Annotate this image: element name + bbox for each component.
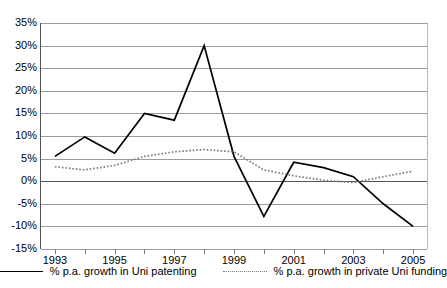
y-axis-tick-label: 0% <box>1 175 37 186</box>
x-axis-tick <box>383 249 384 254</box>
gridline <box>41 136 427 137</box>
y-axis-tick-label: 20% <box>1 85 37 96</box>
gridline <box>41 113 427 114</box>
legend-label-private-uni-funding: % p.a. growth in private Uni funding <box>274 265 447 277</box>
y-axis-tick-label: 25% <box>1 62 37 73</box>
legend-item-uni-patenting: % p.a. growth in Uni patenting <box>0 265 197 277</box>
y-axis-tick-label: -5% <box>1 198 37 209</box>
gridline <box>41 23 427 24</box>
y-axis-tick-label: 10% <box>1 130 37 141</box>
y-axis-tick-label: -15% <box>1 243 37 254</box>
x-axis-tick <box>264 249 265 254</box>
x-axis-tick <box>324 249 325 254</box>
plot-area <box>40 23 428 249</box>
gridline <box>41 46 427 47</box>
y-axis-tick-label: 5% <box>1 153 37 164</box>
y-axis-labels: 35%30%25%20%15%10%5%0%-5%-10%-15% <box>0 0 37 288</box>
solid-line-swatch <box>0 267 43 276</box>
gridline <box>41 68 427 69</box>
dotted-line-swatch <box>223 267 267 276</box>
gridline <box>41 226 427 227</box>
x-axis-tick <box>204 249 205 254</box>
gridline <box>41 159 427 160</box>
y-axis-tick-label: 30% <box>1 40 37 51</box>
x-axis-tick <box>85 249 86 254</box>
legend-item-private-uni-funding: % p.a. growth in private Uni funding <box>223 265 447 277</box>
gridline <box>41 181 427 182</box>
y-axis-tick-label: 35% <box>1 17 37 28</box>
x-axis-tick <box>144 249 145 254</box>
legend-label-uni-patenting: % p.a. growth in Uni patenting <box>50 265 197 277</box>
y-axis-tick-label: 15% <box>1 107 37 118</box>
chart-legend: % p.a. growth in Uni patenting % p.a. gr… <box>0 259 446 283</box>
gridline <box>41 91 427 92</box>
y-axis-tick-label: -10% <box>1 220 37 231</box>
gridline <box>41 204 427 205</box>
